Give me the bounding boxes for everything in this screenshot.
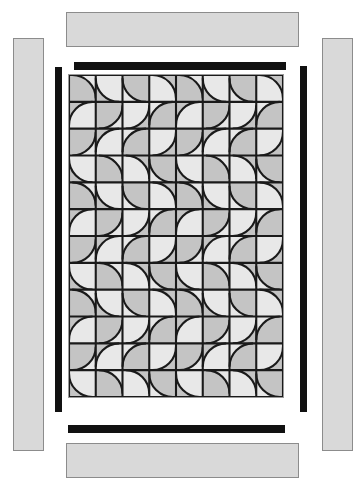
inner-border-right-strip <box>300 66 307 412</box>
outer-border-top-strip <box>66 12 299 47</box>
quilt-layout-diagram <box>0 0 364 485</box>
drunkards-path-pattern <box>69 75 283 397</box>
inner-border-left-strip <box>55 67 62 412</box>
outer-border-right-strip <box>322 38 353 451</box>
outer-border-bottom-strip <box>66 443 299 478</box>
inner-border-bottom-strip <box>68 425 285 433</box>
quilt-center-block <box>68 74 284 398</box>
outer-border-left-strip <box>13 38 44 451</box>
inner-border-top-strip <box>74 62 286 70</box>
